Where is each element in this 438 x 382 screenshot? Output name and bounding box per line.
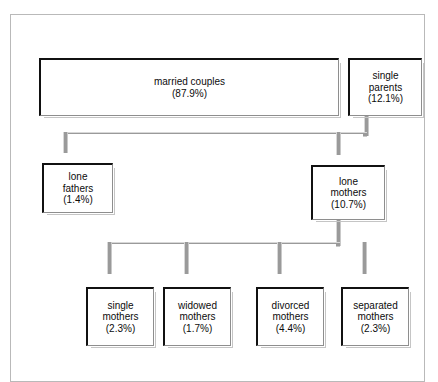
- connector-widowed-mothers-drop: [184, 242, 189, 274]
- node-separated-mothers-label-line1: separated: [353, 300, 397, 312]
- node-lone-mothers[interactable]: lone mothers (10.7%): [311, 165, 385, 220]
- connector-level2-bus-inner: [66, 134, 363, 137]
- node-single-mothers-percent: (2.3%): [106, 323, 135, 335]
- node-single-mothers-label-line1: single: [107, 300, 133, 312]
- node-married-couples[interactable]: married couples (87.9%): [39, 58, 339, 116]
- node-divorced-mothers-label-line1: divorced: [272, 300, 310, 312]
- node-lone-fathers-label-line2: fathers: [63, 183, 94, 195]
- node-divorced-mothers[interactable]: divorced mothers (4.4%): [256, 287, 324, 346]
- connector-lone-fathers-drop: [63, 132, 68, 153]
- node-widowed-mothers-label-line1: widowed: [178, 300, 217, 312]
- node-separated-mothers[interactable]: separated mothers (2.3%): [341, 287, 409, 346]
- node-separated-mothers-percent: (2.3%): [361, 323, 390, 335]
- node-lone-fathers[interactable]: lone fathers (1.4%): [42, 163, 113, 213]
- node-widowed-mothers-percent: (1.7%): [183, 323, 212, 335]
- node-single-mothers[interactable]: single mothers (2.3%): [86, 287, 154, 346]
- connector-level3-bus-inner: [110, 244, 336, 247]
- connector-single-mothers-drop: [107, 242, 112, 274]
- node-single-parents-label-line2: parents: [369, 82, 402, 94]
- node-lone-mothers-label-line1: lone: [339, 176, 358, 188]
- node-single-parents-percent: (12.1%): [368, 93, 403, 105]
- node-lone-mothers-label-line2: mothers: [330, 187, 366, 199]
- node-single-parents[interactable]: single parents (12.1%): [348, 58, 422, 116]
- figure-frame: married couples (87.9%) single parents (…: [10, 14, 425, 382]
- node-single-mothers-label-line2: mothers: [102, 311, 138, 323]
- node-widowed-mothers-label-line2: mothers: [179, 311, 215, 323]
- node-divorced-mothers-label-line2: mothers: [272, 311, 308, 323]
- node-single-parents-label-line1: single: [372, 70, 398, 82]
- node-lone-fathers-percent: (1.4%): [63, 194, 92, 206]
- node-married-couples-label: married couples: [154, 76, 225, 88]
- connector-lone-mothers-drop: [336, 132, 341, 155]
- node-lone-mothers-percent: (10.7%): [331, 199, 366, 211]
- node-married-couples-percent: (87.9%): [172, 88, 207, 100]
- node-lone-fathers-label-line1: lone: [69, 171, 88, 183]
- node-widowed-mothers[interactable]: widowed mothers (1.7%): [163, 287, 231, 346]
- connector-divorced-mothers-drop: [277, 242, 282, 274]
- connector-separated-mothers-drop: [362, 242, 367, 274]
- node-separated-mothers-label-line2: mothers: [357, 311, 393, 323]
- node-divorced-mothers-percent: (4.4%): [276, 323, 305, 335]
